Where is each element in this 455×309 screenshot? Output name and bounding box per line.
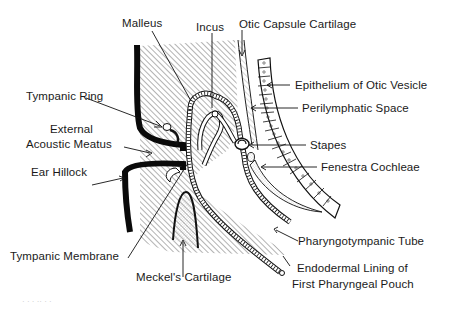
label-external-acoustic-meatus-2: Acoustic Meatus bbox=[26, 138, 112, 151]
label-external-acoustic-meatus-1: External bbox=[50, 123, 93, 136]
label-epithelium-of-otic-vesicle: Epithelium of Otic Vesicle bbox=[295, 79, 427, 92]
label-endodermal-lining-2: First Pharyngeal Pouch bbox=[292, 278, 414, 291]
label-ear-hillock: Ear Hillock bbox=[31, 166, 87, 179]
label-stapes: Stapes bbox=[310, 139, 346, 152]
label-meckels-cartilage: Meckel's Cartilage bbox=[136, 271, 231, 284]
label-perilymphatic-space: Perilymphatic Space bbox=[302, 102, 409, 115]
label-fenestra-cochleae: Fenestra Cochleae bbox=[321, 161, 420, 174]
label-endodermal-lining-1: Endodermal Lining of bbox=[297, 262, 408, 275]
stapes bbox=[235, 139, 249, 150]
label-tympanic-membrane: Tympanic Membrane bbox=[10, 250, 119, 263]
label-malleus: Malleus bbox=[122, 17, 162, 30]
figure-caption: · · · ·· · · bbox=[22, 297, 52, 306]
label-incus: Incus bbox=[196, 21, 224, 34]
label-otic-capsule-cartilage: Otic Capsule Cartilage bbox=[239, 18, 356, 31]
fenestra-cochleae bbox=[248, 153, 255, 162]
label-tympanic-ring: Tympanic Ring bbox=[26, 90, 103, 103]
label-pharyngotympanic-tube: Pharyngotympanic Tube bbox=[298, 235, 424, 248]
